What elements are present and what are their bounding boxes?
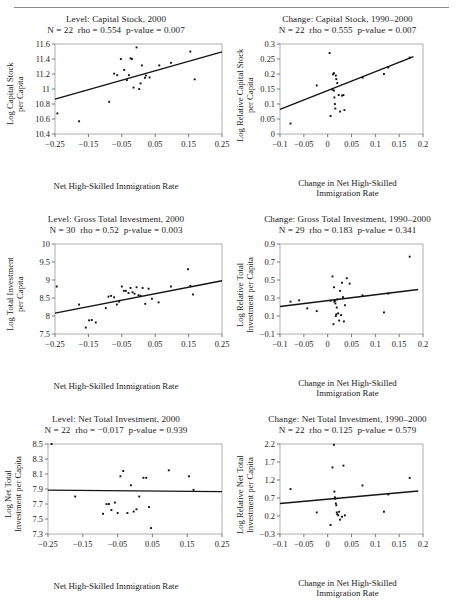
- y-tick-label: 9: [46, 276, 50, 285]
- x-tick-label: −0.25: [45, 340, 64, 349]
- data-point: [158, 302, 160, 304]
- data-point: [148, 288, 150, 290]
- data-point: [343, 109, 345, 111]
- x-tick-label: 0.05: [344, 140, 359, 149]
- y-tick-label: 7.9: [33, 485, 43, 494]
- data-point: [108, 296, 110, 298]
- panel-level-net-total-investment: Level: Net Total Investment, 2000 N = 22…: [0, 410, 232, 612]
- x-axis-label-line2: Immigration Rate: [316, 588, 378, 598]
- data-point: [335, 313, 337, 315]
- y-tick-label: 0.3: [265, 294, 275, 303]
- y-tick-label: 0: [271, 130, 275, 139]
- data-point: [148, 506, 150, 508]
- data-point: [192, 294, 194, 296]
- y-tick-label: 0.05: [260, 115, 275, 124]
- data-point: [51, 443, 53, 445]
- data-point: [117, 512, 119, 514]
- data-point: [116, 304, 118, 306]
- stat-rho: rho = 0.52: [80, 225, 119, 235]
- data-point: [110, 509, 112, 511]
- panel-title: Change: Gross Total Investment, 1990–200…: [232, 214, 463, 225]
- stat-pvalue: p-value = 0.007: [126, 25, 185, 35]
- panel-change-capital-stock: Change: Capital Stock, 1990–2000 N = 22 …: [232, 10, 463, 210]
- data-point: [333, 90, 335, 92]
- data-point: [334, 103, 336, 105]
- data-point: [193, 489, 195, 491]
- x-tick-label: 0: [326, 140, 330, 149]
- data-point: [329, 52, 331, 54]
- data-point: [330, 115, 332, 117]
- data-point: [106, 503, 108, 505]
- data-point: [125, 290, 127, 292]
- y-tick-label: 0.3: [265, 40, 275, 49]
- data-point: [113, 73, 115, 75]
- x-tick-label: −0.05: [112, 140, 131, 149]
- x-axis-label: Change in Net High-Skilled Immigration R…: [232, 578, 463, 599]
- data-point: [335, 78, 337, 80]
- panel-stats: N = 30 rho = 0.52 p-value = 0.003: [0, 225, 232, 236]
- y-tick-label: 9.5: [40, 258, 50, 267]
- plot-area-wrapper: Log Relative Net Total Investment per Ca…: [232, 436, 463, 564]
- plot-area-wrapper: Log Net Total Investment per Capita 7.37…: [0, 436, 232, 564]
- plot-area-wrapper: Log Capital Stock per Capita 10.410.610.…: [0, 36, 232, 164]
- y-tick-label: 7.5: [40, 330, 50, 339]
- data-point: [110, 295, 112, 297]
- x-tick-label: 0.1: [370, 340, 380, 349]
- data-point: [316, 85, 318, 87]
- x-tick-label: 0.05: [145, 540, 160, 549]
- data-point: [341, 516, 343, 518]
- scatter-plot-svg: 7.588.599.510−0.25−0.15−0.050.050.150.25: [0, 236, 232, 364]
- y-tick-label: 11.2: [36, 70, 50, 79]
- data-point: [108, 503, 110, 505]
- stat-rho: rho = −0.017: [75, 425, 124, 435]
- x-tick-label: 0.05: [344, 540, 359, 549]
- panel-title: Level: Net Total Investment, 2000: [0, 414, 232, 425]
- y-tick-label: 2.2: [265, 440, 275, 449]
- data-point: [362, 485, 364, 487]
- x-tick-label: 0.05: [344, 340, 359, 349]
- plot-area-wrapper: Log Relative Capital Stock per Capita 00…: [232, 36, 463, 164]
- data-point: [138, 294, 140, 296]
- data-point: [56, 286, 58, 288]
- x-axis-label: Net High-Skilled Immigration Rate: [0, 181, 232, 191]
- panel-stats: N = 29 rho = 0.183 p-value = 0.341: [232, 225, 463, 236]
- data-point: [338, 94, 340, 96]
- data-point: [120, 58, 122, 60]
- x-tick-label: −0.25: [38, 540, 57, 549]
- y-tick-label: 11: [42, 85, 50, 94]
- y-tick-label: 11.6: [36, 40, 50, 49]
- data-point: [334, 303, 336, 305]
- x-tick-label: −0.1: [272, 140, 287, 149]
- panel-titles: Level: Gross Total Investment, 2000 N = …: [0, 210, 232, 236]
- y-tick-label: 0.15: [260, 85, 275, 94]
- data-point: [336, 82, 338, 84]
- data-point: [133, 87, 135, 89]
- plot-frame: [280, 244, 423, 334]
- data-point: [170, 286, 172, 288]
- panel-level-capital-stock: Level: Capital Stock, 2000 N = 22 rho = …: [0, 10, 232, 210]
- scatter-plot-svg: 00.050.10.150.20.250.3−0.1−0.0500.050.10…: [232, 36, 463, 164]
- scatter-plot-svg: −0.30.20.71.21.72.2−0.1−0.0500.050.10.15…: [232, 436, 463, 564]
- figure-panel-grid: Level: Capital Stock, 2000 N = 22 rho = …: [0, 10, 463, 612]
- data-point: [105, 307, 107, 309]
- data-point: [306, 308, 308, 310]
- stat-pvalue: p-value = 0.579: [357, 425, 416, 435]
- data-point: [338, 511, 340, 513]
- data-point: [339, 519, 341, 521]
- stat-n: N = 22: [47, 25, 73, 35]
- y-tick-label: 8.1: [33, 470, 43, 479]
- panel-stats: N = 22 rho = 0.554 p-value = 0.007: [0, 25, 232, 36]
- data-point: [132, 292, 134, 294]
- data-point: [316, 512, 318, 514]
- y-tick-label: 7.3: [33, 530, 43, 539]
- y-tick-label: 10.6: [35, 115, 50, 124]
- data-point: [144, 303, 146, 305]
- stat-n: N = 29: [279, 225, 305, 235]
- data-point: [128, 74, 130, 76]
- data-point: [409, 477, 411, 479]
- x-axis-label: Net High-Skilled Immigration Rate: [0, 581, 232, 591]
- stat-n: N = 22: [279, 425, 305, 435]
- y-tick-label: 0.2: [265, 70, 275, 79]
- x-tick-label: −0.05: [112, 340, 131, 349]
- y-tick-label: 0.7: [265, 494, 275, 503]
